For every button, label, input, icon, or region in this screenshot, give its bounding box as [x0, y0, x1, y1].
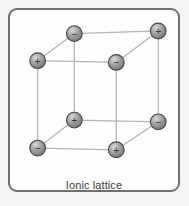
ion-charge-label: + — [35, 56, 41, 67]
ion-charge-label: + — [113, 145, 119, 156]
lattice-ion-back-top-left: − — [66, 26, 82, 42]
lattice-ion-back-bottom-right: − — [150, 114, 166, 130]
lattice-ions: −++−+−−+ — [30, 23, 166, 158]
lattice-diagram: −++−+−−+ — [10, 10, 178, 190]
lattice-edge — [38, 61, 117, 63]
lattice-edges — [38, 31, 159, 150]
lattice-ion-back-bottom-left: + — [66, 112, 82, 128]
lattice-edge — [74, 31, 158, 34]
ion-charge-label: − — [155, 117, 161, 128]
ion-charge-label: + — [155, 26, 161, 37]
ion-charge-label: − — [113, 57, 119, 68]
lattice-ion-front-bottom-left: − — [30, 140, 46, 156]
ion-charge-label: − — [35, 143, 41, 154]
lattice-edge — [38, 148, 117, 150]
ionic-lattice-figure: −++−+−−+ Ionic lattice — [0, 0, 189, 206]
ion-charge-label: + — [71, 115, 77, 126]
figure-caption: Ionic lattice — [10, 179, 178, 191]
lattice-ion-front-bottom-right: + — [108, 142, 124, 158]
lattice-ion-back-top-right: + — [150, 23, 166, 39]
ion-charge-label: − — [71, 29, 77, 40]
lattice-ion-front-top-right: − — [108, 55, 124, 71]
lattice-ion-front-top-left: + — [30, 53, 46, 69]
figure-frame: −++−+−−+ Ionic lattice — [8, 8, 180, 192]
